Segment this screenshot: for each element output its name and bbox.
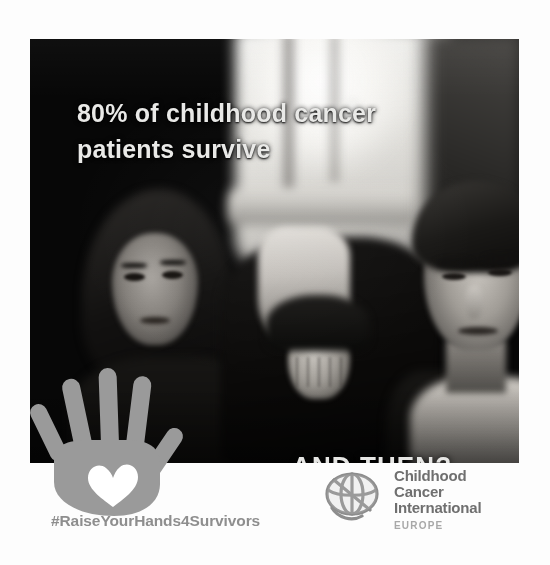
poster-canvas: 80% of childhood cancer patients survive… <box>0 0 550 565</box>
person-left-eye-left <box>124 273 145 281</box>
person-right-mouth <box>458 327 498 335</box>
person-left-eye-right <box>162 271 183 279</box>
logo-line-2: Cancer <box>394 484 481 500</box>
logo-line-3: International <box>394 500 481 516</box>
organization-logo: Childhood Cancer International EUROPE <box>318 466 481 531</box>
person-right-eye-right <box>488 269 512 276</box>
globe-icon <box>318 466 386 528</box>
organization-name: Childhood Cancer International EUROPE <box>394 466 481 531</box>
campaign-question: AND THEN? <box>292 451 452 463</box>
person-right-brow-left <box>436 259 472 267</box>
person-right <box>402 181 519 463</box>
logo-region: EUROPE <box>394 517 481 531</box>
raised-hand-with-heart-icon <box>24 358 204 523</box>
logo-line-1: Childhood <box>394 468 481 484</box>
center-hand-knuckles <box>296 357 344 387</box>
person-left-face <box>112 233 198 345</box>
page-title: 80% of childhood cancer patients survive <box>77 96 376 167</box>
person-left-mouth <box>140 317 170 324</box>
center-sleeve <box>266 295 370 351</box>
person-left-brow-left <box>121 263 147 268</box>
person-right-brow-right <box>484 255 518 263</box>
person-right-nose <box>466 285 482 319</box>
person-right-eye-left <box>442 273 466 280</box>
campaign-hashtag: #RaiseYourHands4Survivors <box>51 512 260 530</box>
person-left-brow-right <box>160 260 186 265</box>
